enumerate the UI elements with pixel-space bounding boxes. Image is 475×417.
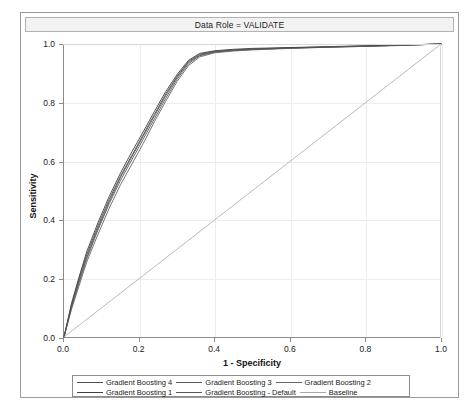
x-tick [214, 338, 215, 342]
legend-entry-gradient-boosting-1[interactable]: Gradient Boosting 1 [73, 388, 172, 397]
legend-entry-gradient-boosting-3[interactable]: Gradient Boosting 3 [172, 378, 271, 387]
legend-entry-baseline[interactable]: Baseline [296, 388, 358, 397]
x-tick-label: 0.2 [133, 344, 145, 354]
legend-label: Gradient Boosting 1 [106, 388, 172, 397]
y-tick [59, 338, 63, 339]
y-tick-label: 1.0 [33, 39, 55, 49]
legend-entry-gradient-boosting-2[interactable]: Gradient Boosting 2 [272, 378, 371, 387]
legend-entry-gradient-boosting-default[interactable]: Gradient Boosting - Default [172, 388, 295, 397]
x-tick-label: 0.6 [284, 344, 296, 354]
y-tick-label: 0.8 [33, 98, 55, 108]
x-tick-label: 1.0 [435, 344, 447, 354]
gridline-vertical [442, 44, 443, 337]
x-tick [139, 338, 140, 342]
y-tick-label: 0.0 [33, 333, 55, 343]
y-tick [59, 220, 63, 221]
roc-chart: 0.00.20.40.60.81.00.00.20.40.60.81.0 1 -… [21, 33, 460, 369]
y-axis-title: Sensitivity [28, 126, 38, 266]
legend-entry-gradient-boosting-4[interactable]: Gradient Boosting 4 [73, 378, 172, 387]
x-tick [63, 338, 64, 342]
plot-area [63, 44, 441, 338]
legend-label: Baseline [329, 388, 358, 397]
roc-curve-baseline [64, 44, 441, 337]
legend-line-swatch [276, 382, 302, 383]
legend-line-swatch [176, 382, 202, 383]
chart-panel: Data Role = VALIDATE 0.00.20.40.60.81.00… [20, 12, 459, 398]
chart-legend: Gradient Boosting 4Gradient Boosting 3Gr… [72, 375, 410, 397]
y-tick-label: 0.2 [33, 274, 55, 284]
legend-label: Gradient Boosting 4 [106, 378, 172, 387]
y-tick [59, 103, 63, 104]
y-tick [59, 162, 63, 163]
x-tick [441, 338, 442, 342]
legend-line-swatch [300, 392, 326, 393]
legend-line-swatch [77, 382, 103, 383]
legend-line-swatch [176, 392, 202, 393]
y-tick [59, 279, 63, 280]
roc-curves [64, 44, 441, 337]
panel-title-bar: Data Role = VALIDATE [25, 17, 454, 32]
panel-title: Data Role = VALIDATE [195, 20, 284, 30]
legend-label: Gradient Boosting 3 [205, 378, 271, 387]
legend-line-swatch [77, 392, 103, 393]
legend-row: Gradient Boosting 4Gradient Boosting 3Gr… [73, 377, 409, 387]
legend-label: Gradient Boosting 2 [305, 378, 371, 387]
legend-label: Gradient Boosting - Default [205, 388, 295, 397]
x-tick [365, 338, 366, 342]
x-tick-label: 0.0 [57, 344, 69, 354]
x-tick-label: 0.4 [208, 344, 220, 354]
x-tick [290, 338, 291, 342]
x-axis-title: 1 - Specificity [63, 358, 441, 368]
legend-row: Gradient Boosting 1Gradient Boosting - D… [73, 387, 409, 397]
x-tick-label: 0.8 [359, 344, 371, 354]
y-tick [59, 44, 63, 45]
